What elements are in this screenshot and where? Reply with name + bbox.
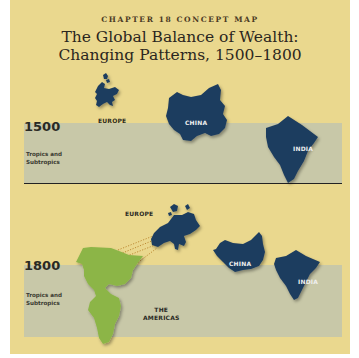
europe-label-1500: EUROPE [98,117,126,124]
india-label-1500: INDIA [293,145,313,152]
india-1800-shape [274,250,320,300]
concept-map-page: CHAPTER 18 CONCEPT MAP The Global Balanc… [10,0,350,354]
india-label-1800: INDIA [298,278,318,285]
region-shapes [10,0,350,354]
china-label-1800: CHINA [229,260,251,267]
europe-1800-shape [151,204,200,250]
china-label-1500: CHINA [185,119,207,126]
china-1500-shape [166,84,227,141]
europe-1500-shape [95,73,119,107]
americas-label-1800: THE AMERICAS [143,306,180,322]
europe-label-1800: EUROPE [125,210,153,217]
americas-1800-shape [76,247,143,344]
